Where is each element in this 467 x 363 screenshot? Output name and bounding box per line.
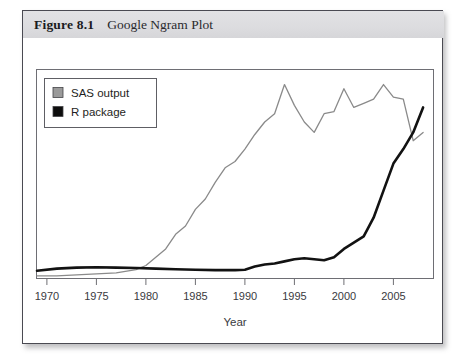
legend-box (45, 79, 157, 128)
chart-legend: SAS outputR package (45, 79, 157, 128)
legend-swatch (53, 107, 63, 117)
ngram-line-chart: 19701975198019851990199520002005 Year SA… (23, 38, 442, 343)
legend-swatch (53, 88, 63, 98)
plot-panel: 19701975198019851990199520002005 Year SA… (23, 38, 442, 343)
figure-caption-bar: Figure 8.1 Google Ngram Plot (23, 11, 444, 38)
figure-title-label: Google Ngram Plot (107, 17, 213, 33)
x-axis-tick-label: 1985 (183, 290, 207, 302)
legend-label: SAS output (71, 87, 130, 99)
legend-label: R package (71, 106, 126, 118)
x-axis-ticks (47, 278, 394, 285)
x-axis-tick-label: 1970 (35, 290, 59, 302)
x-axis-title: Year (223, 316, 246, 328)
figure-card: Figure 8.1 Google Ngram Plot 19701975198… (22, 10, 443, 344)
x-axis-tick-label: 1975 (84, 290, 108, 302)
series-line-r-package (37, 107, 423, 270)
x-axis-tick-label: 1980 (134, 290, 158, 302)
x-axis-tick-label: 2000 (332, 290, 356, 302)
figure-number-label: Figure 8.1 (34, 17, 94, 33)
x-axis-tick-label: 1995 (282, 290, 306, 302)
x-axis-tick-label: 2005 (381, 290, 405, 302)
x-axis-tick-label: 1990 (233, 290, 257, 302)
x-axis-tick-labels: 19701975198019851990199520002005 (35, 290, 406, 302)
